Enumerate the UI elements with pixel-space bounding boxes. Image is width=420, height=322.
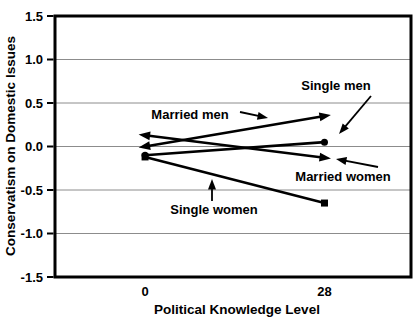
y-tick-label: 0.0 <box>25 139 43 154</box>
annotation-arrow-married-women <box>341 160 378 167</box>
line-label-single-men: Single men <box>301 78 370 93</box>
series-marker-married-women <box>139 131 151 140</box>
series-marker-married-men <box>139 141 151 150</box>
line-label-married-men: Married men <box>151 107 228 122</box>
series-marker-single-women <box>321 200 328 207</box>
line-label-single-women: Single women <box>170 202 257 217</box>
x-tick-label: 28 <box>317 284 331 299</box>
series-marker-single-women <box>142 153 149 160</box>
annotation-arrow-single-men <box>342 96 371 130</box>
annotation-arrowhead-married-women <box>336 157 347 165</box>
series-marker-single-men <box>321 139 328 146</box>
x-axis-title: Political Knowledge Level <box>154 302 320 317</box>
y-tick-label: 0.5 <box>25 96 43 111</box>
y-tick-label: -1.5 <box>21 270 43 285</box>
y-tick-label: -1.0 <box>21 226 43 241</box>
y-axis-title: Conservatism on Domestic Issues <box>3 36 18 256</box>
figure: Conservatism on Domestic Issues Politica… <box>0 0 420 322</box>
line-chart: Conservatism on Domestic Issues Politica… <box>0 0 420 322</box>
annotation-arrowhead-single-women <box>208 179 216 190</box>
series-marker-married-women <box>319 153 331 162</box>
series-marker-married-men <box>319 113 331 122</box>
y-tick-label: 1.0 <box>25 52 43 67</box>
y-tick-label: 1.5 <box>25 9 43 24</box>
y-tick-label: -0.5 <box>21 183 43 198</box>
x-tick-label: 0 <box>141 284 148 299</box>
line-label-married-women: Married women <box>295 169 390 184</box>
plot-area: 1.51.00.50.0-0.5-1.0-1.5028Married menSi… <box>21 9 411 300</box>
annotation-arrowhead-married-men <box>257 112 268 120</box>
